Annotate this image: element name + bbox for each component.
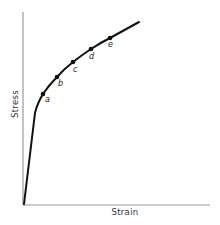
point-label: d (89, 52, 95, 61)
y-axis-label: Stress (10, 90, 20, 118)
point-c: c (71, 60, 78, 74)
stress-strain-curve (24, 22, 139, 204)
point-d: d (89, 47, 95, 61)
stress-strain-diagram: a b c d e Stress Strain (0, 0, 220, 225)
point-e: e (108, 36, 113, 49)
point-marker (89, 47, 94, 52)
point-b: b (55, 75, 63, 88)
point-a: a (41, 92, 50, 104)
point-label: a (45, 95, 50, 104)
curve-points: a b c d e (41, 36, 113, 104)
point-label: c (73, 65, 78, 74)
axes (23, 12, 210, 205)
point-marker (71, 60, 76, 65)
point-label: b (58, 79, 63, 88)
point-label: e (108, 40, 113, 49)
x-axis-label: Strain (112, 207, 139, 217)
